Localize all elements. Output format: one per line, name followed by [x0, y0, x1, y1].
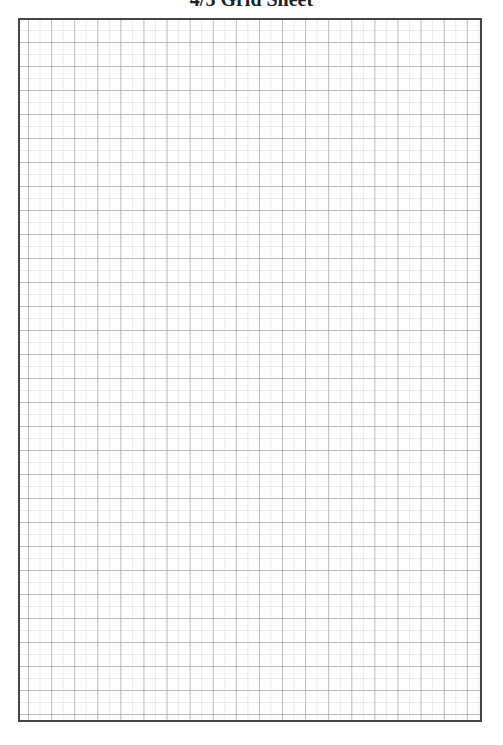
grid-sheet [18, 18, 482, 722]
page-title: 4/5 Grid Sheet [0, 0, 503, 11]
